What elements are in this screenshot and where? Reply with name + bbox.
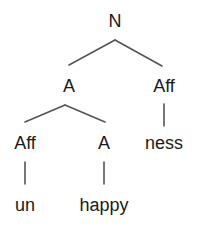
leaf-ness: ness <box>145 134 183 152</box>
edge-n-to-a <box>69 40 115 65</box>
leaf-happy: happy <box>79 196 128 214</box>
node-a-adjective: A <box>63 77 75 95</box>
node-aff-prefix: Aff <box>14 134 36 152</box>
edge-a-to-a <box>65 105 105 122</box>
edge-a-to-aff <box>25 105 65 122</box>
node-root-n: N <box>109 12 122 30</box>
node-aff-suffix: Aff <box>153 77 175 95</box>
tree-edges <box>0 0 199 227</box>
node-a-stem: A <box>98 134 110 152</box>
leaf-un: un <box>15 196 35 214</box>
edge-n-to-aff <box>115 40 162 66</box>
